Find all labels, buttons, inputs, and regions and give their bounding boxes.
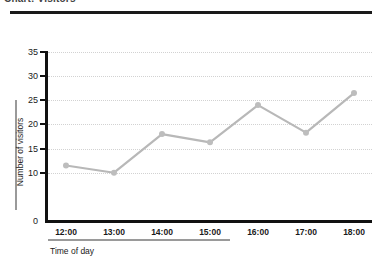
data-point-marker <box>351 90 357 96</box>
data-point-marker <box>159 131 165 137</box>
y-axis-tick-label: 25 <box>18 96 38 105</box>
data-point-marker <box>207 139 213 145</box>
chart-figure: Number of visitors 3530252015100 12:0013… <box>0 18 384 260</box>
x-axis-tick-label: 15:00 <box>199 227 221 237</box>
y-axis-tick-label: 30 <box>18 72 38 81</box>
y-axis-tick-mark <box>40 51 46 53</box>
data-point-marker <box>255 102 261 108</box>
y-axis-tick-label: 0 <box>18 217 38 226</box>
x-axis-tick-label: 18:00 <box>343 227 365 237</box>
plot-area <box>48 52 372 221</box>
y-axis-tick-label: 35 <box>18 48 38 57</box>
x-axis-tick-label: 16:00 <box>247 227 269 237</box>
chart-header: Chart: Visitors <box>0 0 384 18</box>
x-axis-title-rule <box>48 239 230 241</box>
data-point-marker <box>63 162 69 168</box>
page-title: Chart: Visitors <box>4 0 76 4</box>
y-axis-tick-mark <box>40 75 46 77</box>
y-axis-tick-labels: 3530252015100 <box>14 18 38 260</box>
y-axis-tick-label: 20 <box>18 120 38 129</box>
y-axis-tick-mark <box>40 123 46 125</box>
data-point-marker <box>111 170 117 176</box>
y-axis-tick-label: 10 <box>18 169 38 178</box>
data-series-line <box>48 52 372 221</box>
x-axis-title: Time of day <box>50 246 94 256</box>
y-axis-tick-mark <box>40 172 46 174</box>
title-divider <box>10 11 372 14</box>
y-axis-tick-mark <box>40 99 46 101</box>
x-axis-tick-label: 13:00 <box>103 227 125 237</box>
y-axis-tick-mark <box>40 148 46 150</box>
data-point-marker <box>303 130 309 136</box>
x-axis-tick-label: 17:00 <box>295 227 317 237</box>
x-axis-tick-label: 14:00 <box>151 227 173 237</box>
y-axis-tick-label: 15 <box>18 145 38 154</box>
x-axis-tick-label: 12:00 <box>55 227 77 237</box>
series-polyline <box>66 93 354 173</box>
